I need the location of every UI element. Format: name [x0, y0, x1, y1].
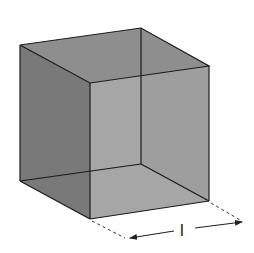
- arrow-left-icon: [130, 231, 174, 238]
- dimension-arrows: [130, 222, 242, 238]
- dimension-label: l: [180, 221, 184, 240]
- arrow-right-icon: [195, 222, 242, 228]
- cube-diagram: l: [0, 0, 254, 253]
